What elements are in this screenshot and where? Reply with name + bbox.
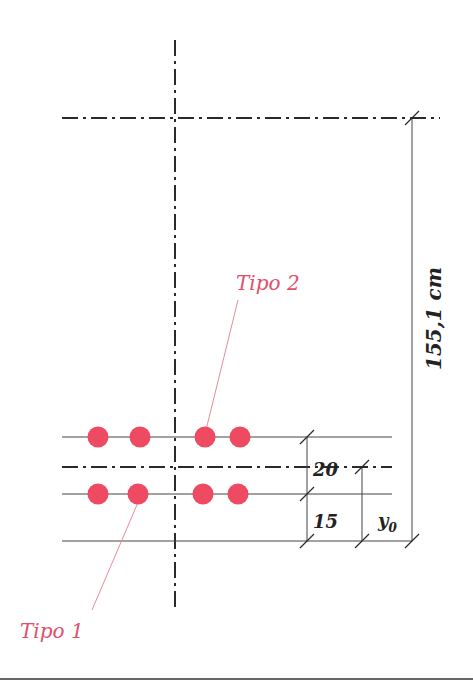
tipo1-leader: [92, 500, 139, 610]
rebar-circle: [128, 484, 149, 505]
dim-label-y0: y0: [377, 510, 397, 535]
rebar-circle: [88, 484, 109, 505]
label-tipo2: Tipo 2: [236, 271, 300, 295]
dim-label-y0-sub: 0: [388, 521, 397, 535]
label-tipo1: Tipo 1: [20, 619, 84, 643]
dim-label-15: 15: [313, 511, 338, 532]
rebar-circle: [195, 427, 216, 448]
rebar-circle: [193, 484, 214, 505]
rebar-circle: [230, 427, 251, 448]
dim-label-20: 20: [312, 459, 339, 480]
rebar-circle: [228, 484, 249, 505]
rebar-circle: [130, 427, 151, 448]
section-diagram: Tipo 2 Tipo 1 20 15 y0 155,1 cm: [0, 0, 473, 685]
tipo2-leader: [206, 300, 238, 430]
rebar-circle: [88, 427, 109, 448]
dimension-ticks: [300, 111, 419, 548]
dim-label-total: 155,1 cm: [422, 267, 446, 370]
